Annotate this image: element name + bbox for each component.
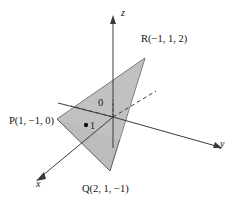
unit-tick-label: 1 — [90, 121, 95, 131]
z-axis-arrowhead-icon — [110, 15, 116, 24]
x-axis-label: x — [36, 179, 40, 189]
origin-label: 0 — [98, 98, 103, 109]
point-label-r: R(−1, 1, 2) — [141, 34, 187, 45]
figure-canvas — [0, 0, 233, 203]
point-label-p: P(1, −1, 0) — [9, 116, 54, 127]
point-label-q: Q(2, 1, −1) — [82, 184, 129, 195]
y-axis-line — [113, 117, 216, 146]
y-axis-label: y — [220, 139, 224, 149]
figure-3d-plane-triangle: z y x R(−1, 1, 2) P(1, −1, 0) Q(2, 1, −1… — [0, 0, 233, 203]
unit-tick-dot — [84, 123, 88, 127]
z-axis-label: z — [121, 8, 125, 18]
